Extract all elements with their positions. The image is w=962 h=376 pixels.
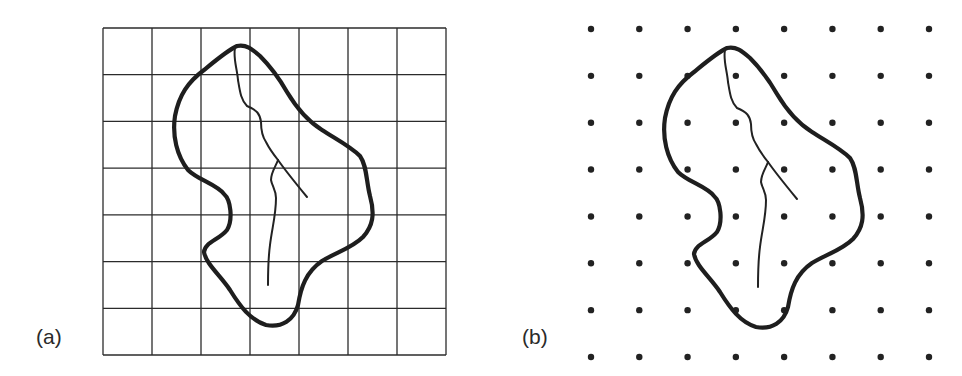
grid-dot — [588, 26, 594, 32]
grid-dot — [781, 26, 787, 32]
grid-dot — [684, 26, 690, 32]
grid-dot — [636, 307, 642, 313]
grid-dot — [878, 354, 884, 360]
grid-dot — [829, 166, 835, 172]
grid-dot — [781, 213, 787, 219]
grid-dot — [636, 26, 642, 32]
grid-dot — [781, 120, 787, 126]
stream-south-branch — [758, 162, 768, 287]
grid-dot — [878, 26, 884, 32]
grid-dot — [636, 73, 642, 79]
grid-dot — [926, 26, 932, 32]
grid-dot — [781, 260, 787, 266]
grid-dot — [684, 260, 690, 266]
grid-dot — [829, 354, 835, 360]
grid-dot — [588, 73, 594, 79]
grid-dot — [878, 213, 884, 219]
grid-dot — [588, 166, 594, 172]
grid-dot — [636, 166, 642, 172]
grid-dot — [684, 213, 690, 219]
grid-dot — [684, 166, 690, 172]
grid-dot — [588, 260, 594, 266]
grid-dot — [733, 166, 739, 172]
grid-dot — [684, 354, 690, 360]
grid-dot — [829, 120, 835, 126]
panel-b-label: (b) — [522, 325, 548, 348]
grid-dot — [588, 213, 594, 219]
grid-dot — [926, 166, 932, 172]
grid-dot — [926, 213, 932, 219]
grid-dot — [733, 260, 739, 266]
panel-b: (b) — [522, 26, 932, 360]
grid-dot — [926, 307, 932, 313]
grid-dot — [878, 120, 884, 126]
dot-grid — [588, 26, 932, 360]
grid-dot — [878, 307, 884, 313]
grid-dot — [781, 166, 787, 172]
grid-dot — [829, 260, 835, 266]
grid-dot — [733, 354, 739, 360]
grid-dot — [926, 120, 932, 126]
grid-dot — [878, 166, 884, 172]
grid-dot — [829, 26, 835, 32]
grid-dot — [588, 120, 594, 126]
grid-dot — [829, 73, 835, 79]
grid-dot — [588, 354, 594, 360]
grid-dot — [926, 354, 932, 360]
grid-dot — [926, 73, 932, 79]
grid-dot — [636, 213, 642, 219]
grid-dot — [781, 354, 787, 360]
grid-dot — [733, 73, 739, 79]
grid-dot — [733, 213, 739, 219]
grid-dot — [829, 307, 835, 313]
grid-dot — [829, 213, 835, 219]
grid-dot — [588, 307, 594, 313]
grid-dot — [878, 73, 884, 79]
stream-main-channel — [234, 48, 278, 160]
figure-canvas: (a) (b) — [0, 0, 962, 376]
grid-dot — [733, 26, 739, 32]
panel-a-label: (a) — [36, 325, 62, 348]
grid-dot — [636, 354, 642, 360]
grid-dot — [926, 260, 932, 266]
stream-east-branch — [278, 160, 307, 197]
grid-dot — [636, 120, 642, 126]
grid-dot — [878, 260, 884, 266]
grid-dot — [636, 260, 642, 266]
grid-dot — [684, 307, 690, 313]
grid-dot — [733, 120, 739, 126]
grid-dot — [781, 73, 787, 79]
stream-south-branch — [268, 160, 278, 285]
grid-dot — [684, 120, 690, 126]
panel-a: (a) — [36, 28, 446, 355]
stream-main-channel — [724, 50, 768, 162]
